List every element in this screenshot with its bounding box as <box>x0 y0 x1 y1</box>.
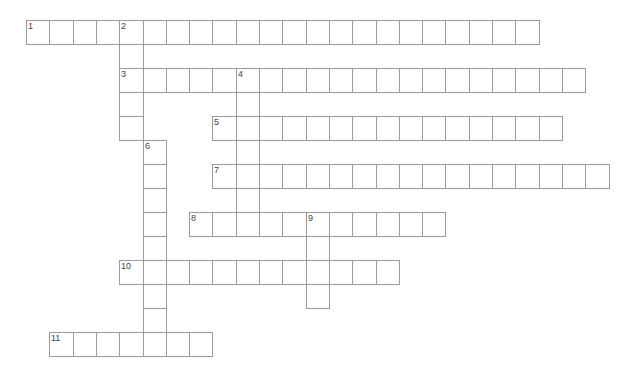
grid-cell[interactable] <box>329 164 353 189</box>
grid-cell[interactable] <box>306 68 330 93</box>
grid-cell[interactable] <box>352 260 377 285</box>
grid-cell[interactable] <box>422 20 446 45</box>
grid-cell[interactable] <box>282 68 307 93</box>
grid-cell[interactable] <box>306 20 330 45</box>
grid-cell[interactable] <box>376 260 400 285</box>
grid-cell[interactable] <box>329 116 353 141</box>
grid-cell[interactable] <box>585 164 610 189</box>
grid-cell[interactable] <box>539 116 563 141</box>
grid-cell[interactable] <box>469 116 493 141</box>
grid-cell[interactable] <box>352 20 377 45</box>
grid-cell[interactable] <box>119 92 144 117</box>
grid-cell[interactable] <box>259 260 283 285</box>
grid-cell[interactable] <box>166 68 190 93</box>
grid-cell[interactable] <box>306 284 330 309</box>
grid-cell[interactable]: 9 <box>306 212 330 237</box>
grid-cell[interactable] <box>236 188 260 213</box>
grid-cell[interactable] <box>352 116 377 141</box>
grid-cell[interactable] <box>282 260 307 285</box>
grid-cell[interactable]: 11 <box>49 332 74 357</box>
grid-cell[interactable] <box>119 116 144 141</box>
grid-cell[interactable] <box>422 68 446 93</box>
grid-cell[interactable] <box>376 20 400 45</box>
grid-cell[interactable] <box>236 212 260 237</box>
grid-cell[interactable] <box>212 212 237 237</box>
grid-cell[interactable] <box>492 164 516 189</box>
grid-cell[interactable] <box>259 164 283 189</box>
grid-cell[interactable] <box>143 236 167 261</box>
grid-cell[interactable] <box>236 116 260 141</box>
grid-cell[interactable]: 5 <box>212 116 237 141</box>
grid-cell[interactable] <box>143 308 167 333</box>
grid-cell[interactable] <box>515 20 540 45</box>
grid-cell[interactable] <box>562 68 586 93</box>
grid-cell[interactable] <box>143 260 167 285</box>
grid-cell[interactable] <box>445 116 470 141</box>
grid-cell[interactable] <box>282 212 307 237</box>
grid-cell[interactable] <box>306 164 330 189</box>
grid-cell[interactable] <box>399 164 423 189</box>
grid-cell[interactable] <box>143 68 167 93</box>
grid-cell[interactable] <box>306 116 330 141</box>
grid-cell[interactable] <box>96 20 120 45</box>
grid-cell[interactable] <box>119 44 144 69</box>
grid-cell[interactable] <box>515 68 540 93</box>
grid-cell[interactable] <box>166 332 190 357</box>
grid-cell[interactable] <box>212 260 237 285</box>
grid-cell[interactable] <box>143 332 167 357</box>
grid-cell[interactable] <box>236 164 260 189</box>
grid-cell[interactable] <box>259 20 283 45</box>
grid-cell[interactable] <box>259 116 283 141</box>
grid-cell[interactable] <box>189 20 213 45</box>
grid-cell[interactable] <box>376 68 400 93</box>
grid-cell[interactable] <box>236 92 260 117</box>
grid-cell[interactable]: 2 <box>119 20 144 45</box>
grid-cell[interactable] <box>166 260 190 285</box>
grid-cell[interactable] <box>306 260 330 285</box>
grid-cell[interactable] <box>445 164 470 189</box>
grid-cell[interactable] <box>329 212 353 237</box>
grid-cell[interactable] <box>469 164 493 189</box>
grid-cell[interactable] <box>469 20 493 45</box>
grid-cell[interactable] <box>259 212 283 237</box>
grid-cell[interactable] <box>539 164 563 189</box>
grid-cell[interactable] <box>329 260 353 285</box>
grid-cell[interactable]: 10 <box>119 260 144 285</box>
grid-cell[interactable] <box>143 212 167 237</box>
grid-cell[interactable] <box>515 116 540 141</box>
grid-cell[interactable] <box>539 68 563 93</box>
grid-cell[interactable] <box>73 332 97 357</box>
grid-cell[interactable] <box>492 68 516 93</box>
grid-cell[interactable]: 6 <box>143 140 167 165</box>
grid-cell[interactable] <box>189 332 213 357</box>
grid-cell[interactable] <box>399 212 423 237</box>
grid-cell[interactable] <box>282 164 307 189</box>
grid-cell[interactable] <box>282 20 307 45</box>
grid-cell[interactable] <box>119 332 144 357</box>
grid-cell[interactable] <box>143 164 167 189</box>
grid-cell[interactable] <box>376 212 400 237</box>
grid-cell[interactable] <box>236 260 260 285</box>
grid-cell[interactable] <box>562 164 586 189</box>
grid-cell[interactable] <box>212 20 237 45</box>
grid-cell[interactable] <box>376 164 400 189</box>
grid-cell[interactable]: 1 <box>26 20 50 45</box>
grid-cell[interactable] <box>166 20 190 45</box>
grid-cell[interactable] <box>143 20 167 45</box>
grid-cell[interactable] <box>352 164 377 189</box>
grid-cell[interactable] <box>49 20 74 45</box>
grid-cell[interactable] <box>352 212 377 237</box>
grid-cell[interactable] <box>399 20 423 45</box>
grid-cell[interactable]: 4 <box>236 68 260 93</box>
grid-cell[interactable]: 8 <box>189 212 213 237</box>
grid-cell[interactable] <box>282 116 307 141</box>
grid-cell[interactable] <box>445 20 470 45</box>
grid-cell[interactable] <box>143 284 167 309</box>
grid-cell[interactable] <box>306 236 330 261</box>
grid-cell[interactable] <box>259 68 283 93</box>
grid-cell[interactable] <box>236 20 260 45</box>
grid-cell[interactable] <box>422 212 446 237</box>
grid-cell[interactable] <box>143 188 167 213</box>
grid-cell[interactable] <box>189 260 213 285</box>
grid-cell[interactable] <box>376 116 400 141</box>
